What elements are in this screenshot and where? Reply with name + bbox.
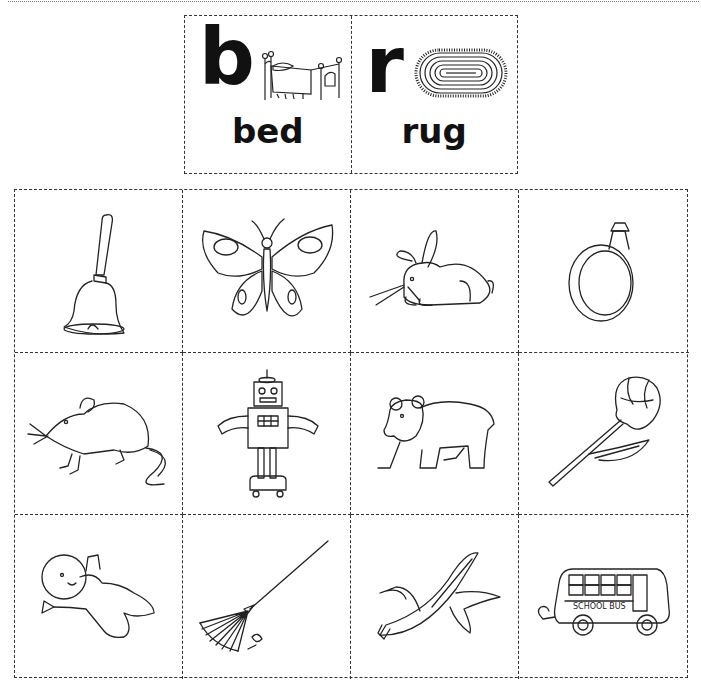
picture-grid: bell butterfly rabbit (14, 189, 688, 678)
picture-card-rabbit[interactable]: rabbit (351, 190, 519, 353)
keyword-rug: rug (352, 114, 518, 148)
letter-r: r (366, 26, 404, 104)
letter-b: b (199, 18, 255, 96)
picture-card-rose[interactable]: rose (519, 353, 689, 515)
ring-icon (529, 201, 679, 341)
picture-card-bear[interactable]: bear (351, 353, 519, 515)
picture-card-baby[interactable]: baby (15, 515, 183, 679)
picture-card-rat[interactable]: rat (15, 353, 183, 515)
picture-card-ring[interactable]: ring (519, 190, 689, 353)
picture-card-rake[interactable]: rake (183, 515, 351, 679)
picture-card-bus[interactable]: bus SCHOOL BUS (519, 515, 689, 679)
school-bus-icon: SCHOOL BUS (529, 527, 679, 667)
rose-icon (529, 364, 679, 504)
keyword-card-b: b bed (185, 16, 351, 173)
bed-icon (259, 44, 347, 102)
banana-icon (360, 527, 510, 667)
bear-icon (360, 364, 510, 504)
keyword-card-r: r rug (351, 16, 518, 173)
robot-icon (192, 364, 342, 504)
rake-icon (192, 527, 342, 667)
picture-card-bell[interactable]: bell (15, 190, 183, 353)
top-dotted-rule (8, 1, 699, 2)
picture-card-butterfly[interactable]: butterfly (183, 190, 351, 353)
rug-icon (412, 44, 510, 102)
bell-icon (24, 201, 174, 341)
keyword-bed: bed (185, 114, 351, 148)
butterfly-icon (192, 201, 342, 341)
rat-icon (24, 364, 174, 504)
rabbit-icon (360, 201, 510, 341)
baby-icon (24, 527, 174, 667)
keyword-card: b bed r rug (184, 15, 518, 174)
bus-sign-text: SCHOOL BUS (573, 602, 626, 611)
picture-card-banana[interactable]: banana (351, 515, 519, 679)
picture-card-robot[interactable]: robot (183, 353, 351, 515)
